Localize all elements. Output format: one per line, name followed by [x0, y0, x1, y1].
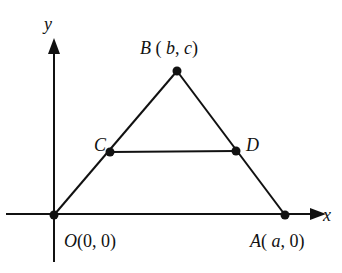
point-D	[232, 147, 241, 156]
segment-OB	[54, 71, 177, 215]
y-axis-arrow-icon	[48, 38, 60, 54]
segment-BA	[177, 71, 285, 215]
x-axis-label: x	[322, 205, 331, 225]
point-A	[281, 211, 290, 220]
point-C	[106, 148, 115, 157]
point-O	[50, 211, 59, 220]
label-C: C	[94, 135, 107, 155]
point-B	[173, 67, 182, 76]
geometry-figure: x y B ( b, c) C D O(0, 0) A( a, 0)	[0, 0, 342, 273]
segment-CD	[110, 151, 236, 152]
diagram-canvas: x y B ( b, c) C D O(0, 0) A( a, 0)	[0, 0, 342, 273]
label-A: A( a, 0)	[249, 231, 305, 252]
y-axis-label: y	[42, 14, 52, 34]
label-O: O(0, 0)	[64, 231, 116, 252]
label-B: B ( b, c)	[140, 38, 198, 59]
label-D: D	[245, 135, 259, 155]
